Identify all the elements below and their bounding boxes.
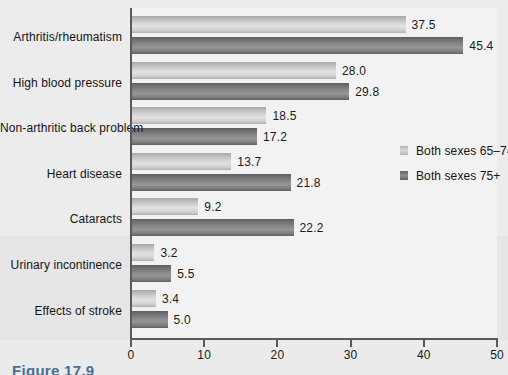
bar-value-label: 3.4: [162, 292, 179, 306]
bar: [131, 62, 336, 79]
legend-item-label: Both sexes 75+: [416, 169, 500, 183]
x-axis-tick: [130, 340, 132, 347]
legend-item: Both sexes 65–74: [400, 142, 508, 159]
category-label: Heart disease: [0, 167, 128, 181]
bar: [131, 16, 406, 33]
y-axis-line: [130, 8, 132, 340]
figure-container: 37.545.428.029.818.517.213.721.89.222.23…: [0, 0, 508, 375]
legend-swatch-icon: [400, 146, 408, 155]
bar-value-label: 29.8: [355, 85, 379, 99]
bar: [131, 265, 171, 282]
x-axis-tick: [496, 340, 498, 347]
bar-value-label: 5.0: [174, 313, 191, 327]
bar: [131, 290, 156, 307]
bar-value-label: 45.4: [469, 39, 493, 53]
x-axis-tick-label: 30: [331, 348, 371, 362]
bar: [131, 153, 231, 170]
bar-value-label: 18.5: [272, 109, 296, 123]
bar-value-label: 3.2: [160, 246, 177, 260]
bar: [131, 198, 198, 215]
bar: [131, 37, 463, 54]
bar: [131, 244, 154, 261]
x-axis-tick-label: 50: [477, 348, 508, 362]
category-label: Arthritis/rheumatism: [0, 30, 128, 44]
category-label: Cataracts: [0, 212, 128, 226]
bar: [131, 174, 291, 191]
x-axis-tick: [276, 340, 278, 347]
category-label: Effects of stroke: [0, 304, 128, 318]
bar-value-label: 17.2: [263, 130, 287, 144]
category-label: Non-arthritic back problem: [0, 121, 128, 135]
bar-value-label: 5.5: [177, 267, 194, 281]
chart-legend: Both sexes 65–74 Both sexes 75+: [400, 142, 508, 192]
bar-value-label: 22.2: [300, 221, 324, 235]
x-axis-tick: [203, 340, 205, 347]
bar: [131, 83, 349, 100]
x-axis-tick-label: 0: [111, 348, 151, 362]
bar-value-label: 28.0: [342, 64, 366, 78]
bar: [131, 128, 257, 145]
category-label: Urinary incontinence: [0, 258, 128, 272]
bar-value-label: 37.5: [412, 18, 436, 32]
figure-caption: Figure 17.9: [12, 362, 95, 375]
x-axis-line: [130, 338, 498, 340]
category-label: High blood pressure: [0, 76, 128, 90]
legend-swatch-icon: [400, 171, 408, 180]
bar-value-label: 21.8: [297, 176, 321, 190]
x-axis-tick: [350, 340, 352, 347]
x-axis-tick-label: 10: [184, 348, 224, 362]
bar: [131, 311, 168, 328]
x-axis-tick-label: 20: [257, 348, 297, 362]
x-axis-tick-label: 40: [404, 348, 444, 362]
legend-item-label: Both sexes 65–74: [416, 144, 508, 158]
bar: [131, 219, 294, 236]
x-axis-tick: [423, 340, 425, 347]
bar: [131, 107, 266, 124]
legend-item: Both sexes 75+: [400, 167, 508, 184]
bar-value-label: 13.7: [237, 155, 261, 169]
bar-value-label: 9.2: [204, 200, 221, 214]
